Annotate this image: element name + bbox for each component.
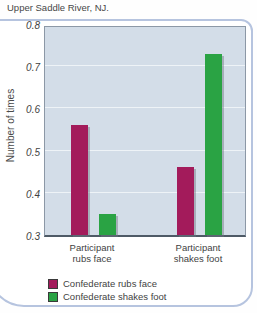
- legend-item: Confederate shakes foot: [48, 290, 167, 303]
- y-axis-title: Number of times: [5, 56, 18, 196]
- legend-swatch-icon: [48, 279, 58, 289]
- bar-confederate-rubs-face-group1: [71, 125, 88, 235]
- legend-label: Confederate shakes foot: [63, 291, 167, 302]
- x-category-label-2: Participant shakes foot: [138, 242, 257, 264]
- y-tick-label-0.4: 0.4: [6, 189, 40, 200]
- x-category-label-1: Participant rubs face: [32, 242, 152, 264]
- y-tick-label-0.3: 0.3: [6, 231, 40, 242]
- legend-label: Confederate rubs face: [63, 278, 157, 289]
- bar-confederate-rubs-face-group2: [177, 167, 194, 235]
- legend: Confederate rubs faceConfederate shakes …: [48, 277, 167, 303]
- y-tick-label-0.5: 0.5: [6, 147, 40, 158]
- y-tick-label-0.6: 0.6: [6, 104, 40, 115]
- y-tick-label-0.8: 0.8: [6, 20, 40, 31]
- bar-confederate-shakes-foot-group1: [99, 214, 116, 235]
- figure-panel: Upper Saddle River, NJ. Number of times …: [0, 0, 257, 313]
- legend-item: Confederate rubs face: [48, 277, 167, 290]
- y-tick-label-0.7: 0.7: [6, 62, 40, 73]
- figure-caption: Upper Saddle River, NJ.: [7, 2, 109, 13]
- plot-area: [44, 26, 246, 237]
- legend-swatch-icon: [48, 292, 58, 302]
- bar-confederate-shakes-foot-group2: [205, 54, 222, 235]
